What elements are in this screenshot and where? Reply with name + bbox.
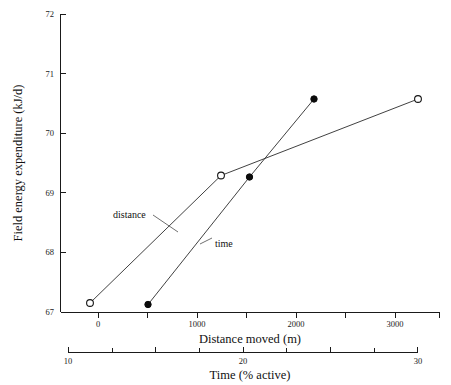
y-axis-title: Field energy expenditure (kJ/d) — [11, 84, 25, 241]
y-axis: 72 71 70 69 68 67 Field energy expenditu… — [11, 9, 66, 317]
annotation-distance: distance — [113, 209, 178, 232]
y-axis-tick-label: 69 — [46, 188, 55, 198]
y-axis-tick-label: 72 — [46, 9, 55, 19]
y-axis-tick-label: 67 — [46, 307, 55, 317]
data-point-distance — [218, 172, 225, 179]
data-point-time — [145, 301, 151, 307]
data-point-distance — [87, 300, 94, 307]
x-axis-distance-title: Distance moved (m) — [199, 332, 301, 346]
series-time-line — [148, 99, 314, 305]
data-point-time — [311, 96, 317, 102]
annotation-time: time — [200, 238, 233, 249]
x-axis-time-tick-label: 20 — [239, 356, 248, 366]
x-axis-distance-tick-label: 3000 — [387, 319, 404, 329]
x-axis-time-tick-label: 30 — [414, 356, 423, 366]
annotation-distance-label: distance — [113, 209, 146, 220]
series-distance — [87, 96, 422, 307]
x-axis-distance-tick-label: 2000 — [288, 319, 305, 329]
x-axis-distance-tick-label: 0 — [96, 319, 100, 329]
data-point-distance — [415, 96, 422, 103]
x-axis-time: 10 20 30 Time (% active) — [64, 347, 423, 382]
x-axis-distance: 0 1000 2000 3000 Distance moved (m) — [61, 313, 441, 347]
data-point-time — [246, 174, 252, 180]
y-axis-tick-label: 70 — [46, 128, 55, 138]
annotation-time-label: time — [215, 238, 233, 249]
series-time — [145, 96, 317, 308]
series-distance-line — [90, 99, 418, 303]
x-axis-time-title: Time (% active) — [210, 368, 291, 382]
chart-canvas: 72 71 70 69 68 67 Field energy expenditu… — [0, 0, 451, 385]
annotation-time-leader — [200, 238, 212, 244]
y-axis-tick-label: 71 — [46, 69, 55, 79]
x-axis-time-tick-label: 10 — [64, 356, 73, 366]
x-axis-distance-tick-label: 1000 — [189, 319, 206, 329]
chart-figure: 72 71 70 69 68 67 Field energy expenditu… — [0, 0, 451, 385]
y-axis-tick-label: 68 — [46, 247, 55, 257]
